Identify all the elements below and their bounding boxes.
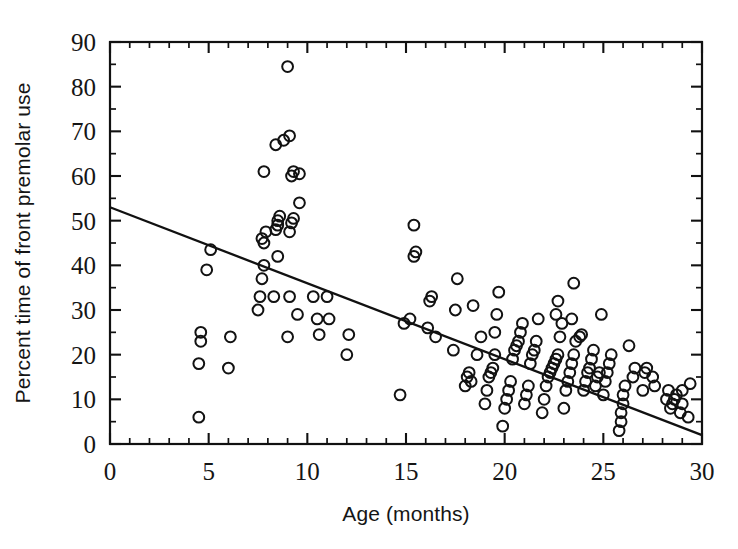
axis-ticks xyxy=(110,42,702,444)
regression-line-path xyxy=(110,207,702,435)
data-point-marker xyxy=(568,278,579,289)
data-point-marker xyxy=(450,305,461,316)
x-tick-label: 10 xyxy=(295,458,320,485)
data-point-marker xyxy=(624,340,635,351)
data-point-marker xyxy=(480,398,491,409)
y-tick-label: 10 xyxy=(71,386,96,413)
data-point-marker xyxy=(537,407,548,418)
data-point-marker xyxy=(497,421,508,432)
regression-line xyxy=(110,207,702,435)
x-tick-label: 5 xyxy=(202,458,215,485)
data-point-marker xyxy=(223,363,234,374)
data-point-marker xyxy=(272,251,283,262)
data-point-marker xyxy=(468,300,479,311)
data-point-marker xyxy=(476,331,487,342)
data-point-marker xyxy=(637,385,648,396)
data-point-marker xyxy=(566,314,577,325)
data-point-marker xyxy=(539,394,550,405)
data-point-marker xyxy=(314,329,325,340)
x-tick-label: 0 xyxy=(104,458,117,485)
data-point-marker xyxy=(259,166,270,177)
y-tick-label: 70 xyxy=(71,118,96,145)
data-point-marker xyxy=(225,331,236,342)
data-point-marker xyxy=(255,291,266,302)
data-point-marker xyxy=(482,385,493,396)
data-point-marker xyxy=(596,309,607,320)
data-point-marker xyxy=(491,309,502,320)
data-point-marker xyxy=(555,331,566,342)
x-tick-label: 20 xyxy=(492,458,517,485)
data-point-marker xyxy=(553,296,564,307)
x-tick-label: 30 xyxy=(690,458,715,485)
y-tick-label: 50 xyxy=(71,208,96,235)
data-point-marker xyxy=(395,389,406,400)
data-point-marker xyxy=(533,314,544,325)
data-point-marker xyxy=(493,287,504,298)
data-point-marker xyxy=(193,358,204,369)
data-point-marker xyxy=(201,264,212,275)
data-point-marker xyxy=(551,309,562,320)
plot-frame xyxy=(110,42,702,444)
data-point-marker xyxy=(292,309,303,320)
data-point-marker xyxy=(341,349,352,360)
data-point-markers xyxy=(193,61,695,436)
data-point-marker xyxy=(193,412,204,423)
y-tick-label: 40 xyxy=(71,252,96,279)
data-point-marker xyxy=(257,273,268,284)
y-tick-label: 20 xyxy=(71,342,96,369)
data-point-marker xyxy=(253,305,264,316)
data-point-marker xyxy=(294,197,305,208)
data-point-marker xyxy=(448,345,459,356)
data-point-marker xyxy=(452,273,463,284)
data-point-marker xyxy=(324,314,335,325)
data-point-marker xyxy=(284,291,295,302)
y-tick-label: 80 xyxy=(71,74,96,101)
plot-canvas: 0510152025300102030405060708090 Age (mon… xyxy=(0,0,738,549)
data-point-marker xyxy=(308,291,319,302)
data-point-marker xyxy=(312,314,323,325)
data-point-marker xyxy=(268,291,279,302)
data-point-marker xyxy=(685,378,696,389)
x-tick-label: 15 xyxy=(394,458,419,485)
data-point-marker xyxy=(489,327,500,338)
data-point-marker xyxy=(282,61,293,72)
data-point-marker xyxy=(558,403,569,414)
data-point-marker xyxy=(282,331,293,342)
data-point-marker xyxy=(408,220,419,231)
y-tick-label: 90 xyxy=(71,29,96,56)
x-axis-title: Age (months) xyxy=(342,502,469,525)
x-tick-label: 25 xyxy=(591,458,616,485)
y-axis-title: Percent time of front premolar use xyxy=(11,83,34,404)
y-tick-label: 30 xyxy=(71,297,96,324)
data-point-marker xyxy=(343,329,354,340)
y-tick-label: 60 xyxy=(71,163,96,190)
scatter-plot-figure: 0510152025300102030405060708090 Age (mon… xyxy=(0,0,738,549)
y-tick-label: 0 xyxy=(84,431,97,458)
